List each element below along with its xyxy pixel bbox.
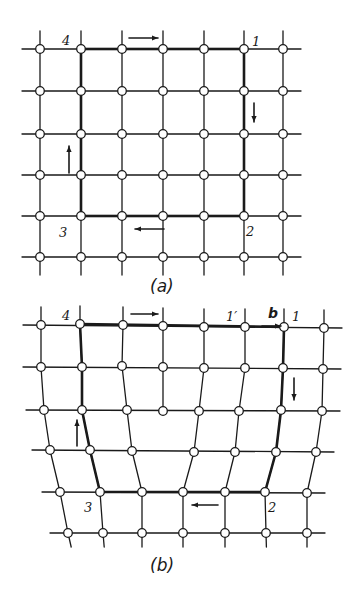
label-b-corner-4: 4 (61, 308, 70, 323)
label-b-corner-1prime: 1′ (226, 309, 237, 324)
figure-labels: 4 1 2 3 (a) 4 1′ b 1 2 3 (b) (0, 0, 361, 592)
label-b-corner-1: 1 (292, 309, 300, 324)
label-b-burgers-vector: b (268, 305, 278, 321)
label-a-corner-4: 4 (61, 33, 70, 48)
label-a-corner-2: 2 (245, 224, 254, 239)
label-b-corner-2: 2 (267, 500, 276, 515)
label-b-corner-3: 3 (84, 500, 92, 515)
label-a-corner-3: 3 (59, 225, 67, 240)
label-a-corner-1: 1 (252, 34, 260, 49)
caption-a: (a) (150, 276, 174, 296)
caption-b: (b) (150, 555, 174, 575)
